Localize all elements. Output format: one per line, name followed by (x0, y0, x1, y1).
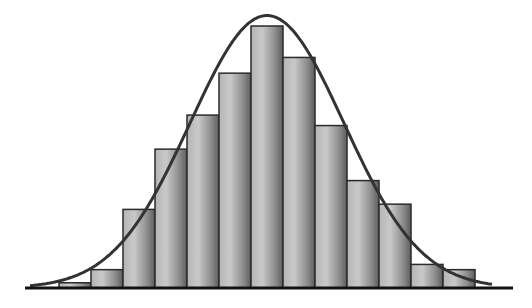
histogram-bars (59, 26, 475, 288)
histogram-chart (0, 0, 532, 308)
histogram-bar (283, 57, 315, 288)
histogram-bar (219, 73, 251, 288)
histogram-bar (155, 149, 187, 288)
histogram-bar (315, 126, 347, 288)
histogram-bar (379, 204, 411, 288)
histogram-bar (411, 264, 443, 288)
histogram-bar (187, 115, 219, 288)
histogram-bar (251, 26, 283, 288)
histogram-bar (347, 181, 379, 288)
histogram-bar (91, 270, 123, 288)
